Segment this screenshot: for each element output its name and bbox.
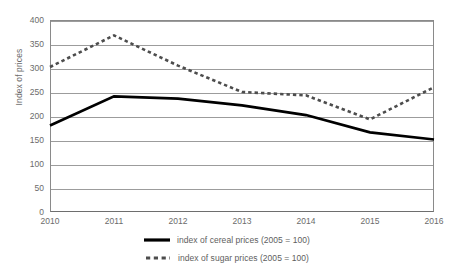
series-line-cereal [50,96,434,139]
x-tick-label: 2015 [350,216,390,226]
legend-label-cereal: index of cereal prices (2005 = 100) [177,235,310,245]
legend-item-sugar: index of sugar prices (2005 = 100) [0,249,454,267]
line-chart: Index of prices 050100150200250300350400… [0,0,454,275]
chart-legend: index of cereal prices (2005 = 100) inde… [0,231,454,267]
x-tick-label: 2012 [158,216,198,226]
y-tick-label: 50 [10,184,44,193]
y-tick-label: 350 [10,40,44,49]
y-tick-label: 300 [10,64,44,73]
x-tick-label: 2011 [94,216,134,226]
y-tick-label: 250 [10,88,44,97]
legend-item-cereal: index of cereal prices (2005 = 100) [0,231,454,249]
x-tick-label: 2010 [30,216,70,226]
x-tick-label: 2013 [222,216,262,226]
data-series-layer [50,20,434,212]
y-tick-label: 150 [10,136,44,145]
dashed-line-swatch [145,253,171,263]
y-tick-label: 100 [10,160,44,169]
solid-line-swatch [144,235,170,245]
x-tick-label: 2014 [286,216,326,226]
x-tick-label: 2016 [414,216,454,226]
y-tick-label: 200 [10,112,44,121]
y-tick-label: 400 [10,16,44,25]
legend-label-sugar: index of sugar prices (2005 = 100) [178,253,309,263]
